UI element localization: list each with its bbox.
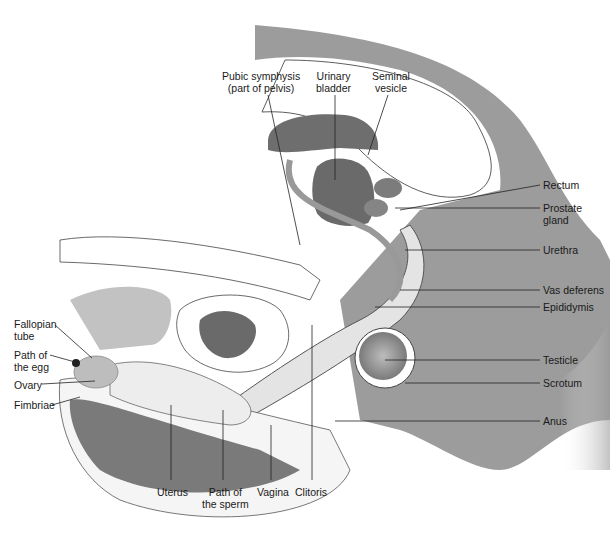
label-fallopian-tube: Fallopian tube bbox=[14, 318, 57, 342]
label-clitoris: Clitoris bbox=[295, 486, 327, 498]
label-rectum: Rectum bbox=[543, 179, 579, 191]
label-vas-deferens: Vas deferens bbox=[543, 284, 604, 296]
label-scrotum: Scrotum bbox=[543, 377, 582, 389]
label-path-of-egg: Path of the egg bbox=[14, 349, 49, 373]
label-path-of-sperm: Path of the sperm bbox=[202, 486, 249, 510]
scrotum bbox=[355, 328, 415, 388]
label-seminal-vesicle: Seminal vesicle bbox=[372, 70, 410, 94]
label-urethra: Urethra bbox=[543, 244, 578, 256]
label-testicle: Testicle bbox=[543, 354, 578, 366]
label-pubic-symphysis: Pubic symphysis (part of pelvis) bbox=[222, 70, 300, 94]
label-vagina: Vagina bbox=[257, 486, 289, 498]
label-uterus: Uterus bbox=[157, 486, 188, 498]
label-fimbriae: Fimbriae bbox=[14, 399, 55, 411]
label-prostate-gland: Prostate gland bbox=[543, 202, 582, 226]
anatomy-diagram bbox=[0, 0, 610, 556]
label-epididymis: Epididymis bbox=[543, 301, 594, 313]
label-ovary: Ovary bbox=[14, 379, 42, 391]
label-urinary-bladder: Urinary bladder bbox=[316, 70, 351, 94]
label-anus: Anus bbox=[543, 415, 567, 427]
